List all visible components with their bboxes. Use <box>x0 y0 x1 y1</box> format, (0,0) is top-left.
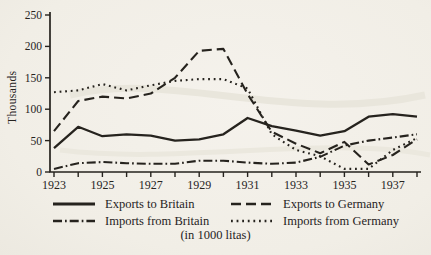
showthrough-curve <box>70 88 425 104</box>
legend-line-sample-icon <box>230 199 274 209</box>
x-tick-label: 1923 <box>42 178 66 192</box>
y-tick-label: 200 <box>25 40 43 52</box>
y-axis-title: Thousands <box>6 70 18 124</box>
y-tick-label: 50 <box>31 135 43 147</box>
series-line-exports-to-britain <box>54 114 417 148</box>
legend-label: Imports from Germany <box>283 213 399 229</box>
x-tick-label: 1925 <box>90 178 114 192</box>
legend-label: Exports to Germany <box>283 196 384 212</box>
x-tick-label: 1929 <box>187 178 211 192</box>
legend-line-sample-icon <box>52 216 96 226</box>
showthrough-curve <box>60 148 430 155</box>
x-tick-label: 1935 <box>332 178 356 192</box>
y-tick-label: 100 <box>25 103 43 115</box>
legend-line-sample-icon <box>52 199 96 209</box>
line-chart-canvas: 0501001502002501923192519271929193119331… <box>0 0 431 200</box>
x-tick-label: 1937 <box>381 178 405 192</box>
x-tick-label: 1931 <box>236 178 260 192</box>
legend-item-imports-from-britain: Imports from Britain <box>52 213 230 229</box>
legend-item-imports-from-germany: Imports from Germany <box>230 213 404 229</box>
x-tick-label: 1927 <box>139 178 163 192</box>
y-tick-label: 250 <box>25 9 43 21</box>
legend-item-exports-to-britain: Exports to Britain <box>52 196 230 212</box>
legend-line-sample-icon <box>230 216 274 226</box>
x-tick-label: 1933 <box>284 178 308 192</box>
y-tick-label: 0 <box>36 166 42 178</box>
legend-label: Exports to Britain <box>105 196 195 212</box>
y-tick-label: 150 <box>25 72 43 84</box>
legend-item-exports-to-germany: Exports to Germany <box>230 196 404 212</box>
chart-caption: (in 1000 litas) <box>0 228 431 243</box>
legend-label: Imports from Britain <box>105 213 209 229</box>
chart-legend: Exports to BritainExports to GermanyImpo… <box>52 196 404 229</box>
trade-line-chart-figure: 0501001502002501923192519271929193119331… <box>0 0 431 255</box>
